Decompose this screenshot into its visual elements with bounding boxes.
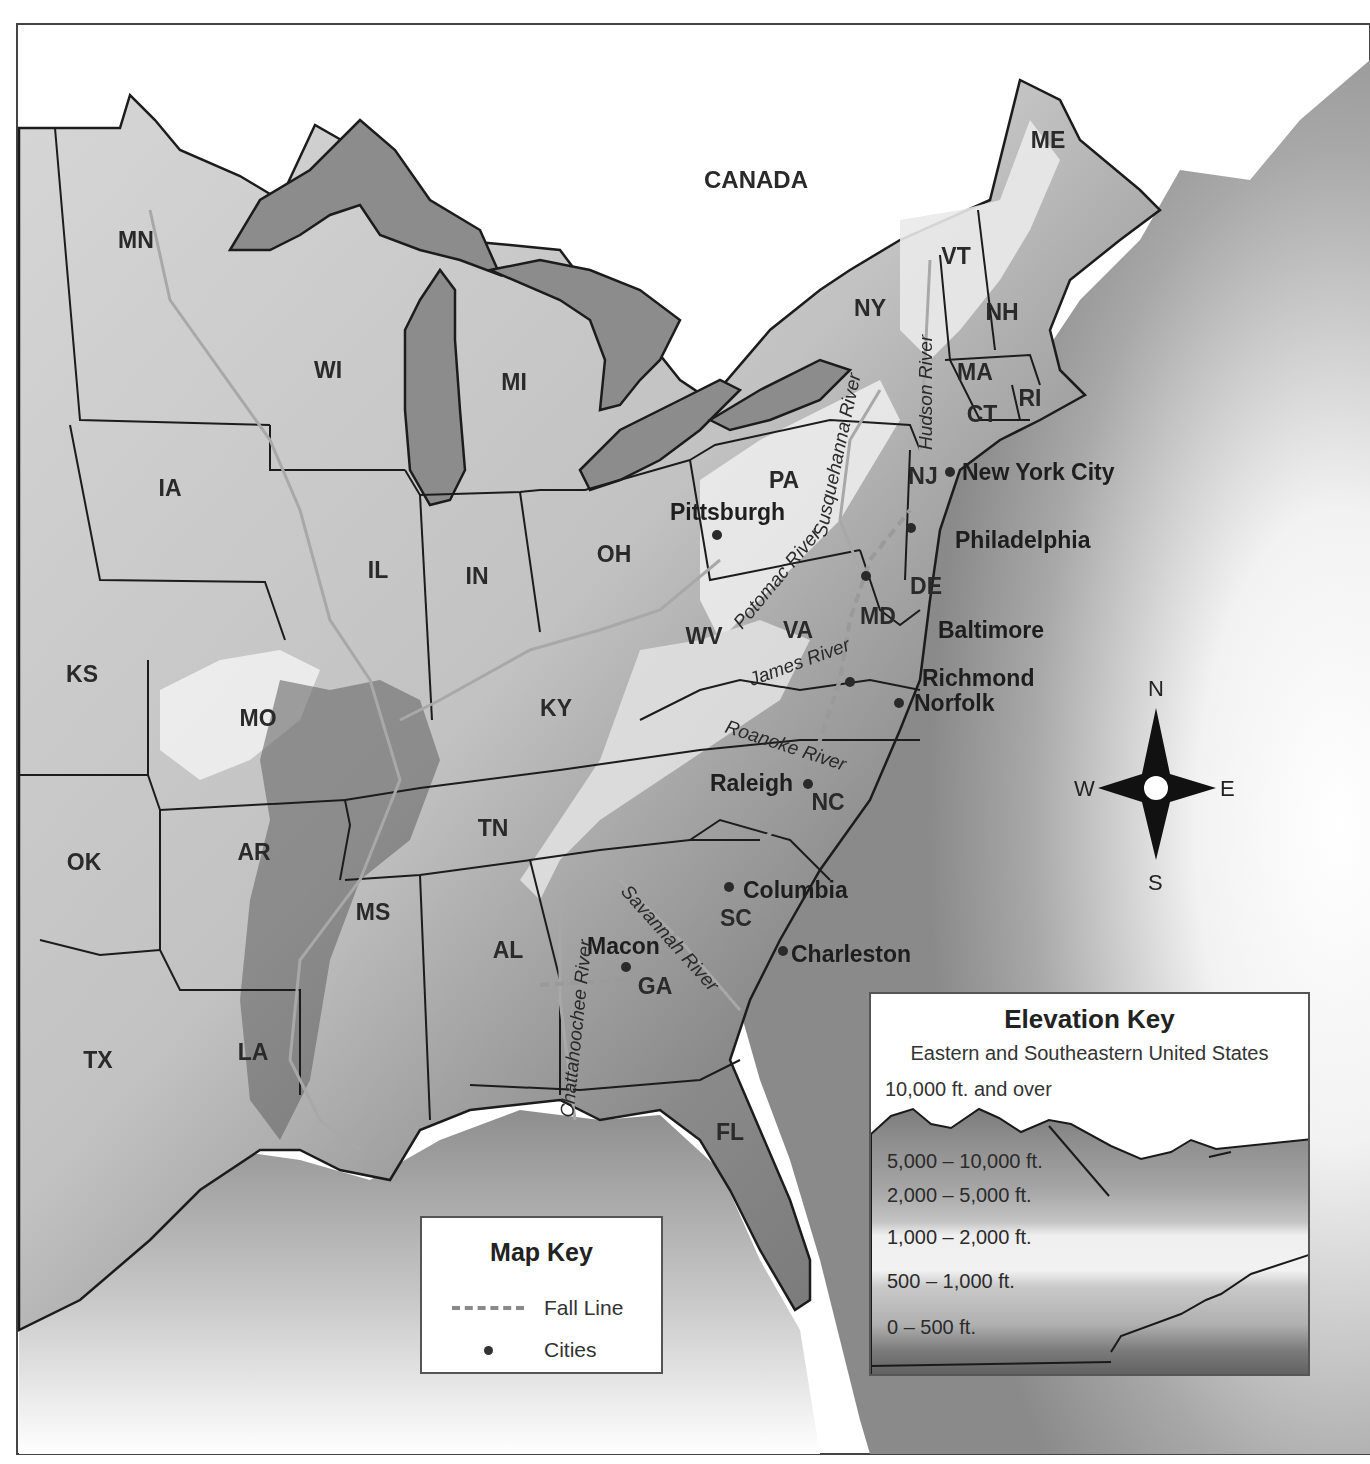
state-label-mo: MO bbox=[239, 705, 276, 731]
state-label-pa: PA bbox=[769, 467, 799, 493]
canada-label: CANADA bbox=[704, 166, 808, 193]
state-label-md: MD bbox=[860, 603, 896, 629]
state-label-ma: MA bbox=[957, 359, 993, 385]
state-label-wi: WI bbox=[314, 357, 342, 383]
city-dot-philadelphia bbox=[906, 523, 916, 533]
state-label-oh: OH bbox=[597, 541, 632, 567]
state-label-mi: MI bbox=[501, 369, 527, 395]
city-dot-columbia bbox=[724, 882, 734, 892]
state-label-ny: NY bbox=[854, 295, 886, 321]
city-dot-pittsburgh bbox=[712, 530, 722, 540]
city-label-new-york-city: New York City bbox=[962, 459, 1115, 485]
band-label-10000-plus: 10,000 ft. and over bbox=[885, 1078, 1052, 1101]
fall-line-label: Fall Line bbox=[544, 1296, 623, 1320]
band-label-0-500: 0 – 500 ft. bbox=[887, 1316, 976, 1339]
state-label-in: IN bbox=[466, 563, 489, 589]
city-label-norfolk: Norfolk bbox=[914, 690, 995, 716]
state-label-nj: NJ bbox=[908, 463, 937, 489]
city-label-philadelphia: Philadelphia bbox=[955, 527, 1091, 553]
elevation-key-subtitle: Eastern and Southeastern United States bbox=[871, 1042, 1308, 1065]
compass-north: N bbox=[1148, 676, 1164, 701]
city-label-columbia: Columbia bbox=[743, 877, 848, 903]
compass-west: W bbox=[1074, 776, 1095, 801]
state-label-va: VA bbox=[783, 617, 813, 643]
state-label-ms: MS bbox=[356, 899, 391, 925]
state-label-fl: FL bbox=[716, 1119, 744, 1145]
compass-south: S bbox=[1148, 870, 1163, 895]
state-label-sc: SC bbox=[720, 905, 752, 931]
city-label-richmond: Richmond bbox=[922, 665, 1034, 691]
state-label-il: IL bbox=[368, 557, 388, 583]
map-key-title: Map Key bbox=[422, 1238, 661, 1267]
city-label-charleston: Charleston bbox=[791, 941, 911, 967]
elevation-key: Elevation Key Eastern and Southeastern U… bbox=[869, 992, 1310, 1376]
state-label-ct: CT bbox=[967, 401, 998, 427]
band-label-5000-10000: 5,000 – 10,000 ft. bbox=[887, 1150, 1043, 1173]
state-label-ks: KS bbox=[66, 661, 98, 687]
state-label-ga: GA bbox=[638, 973, 673, 999]
state-label-me: ME bbox=[1031, 127, 1066, 153]
state-label-de: DE bbox=[910, 573, 942, 599]
map-key-cities: Cities bbox=[452, 1338, 597, 1362]
state-label-ia: IA bbox=[159, 475, 182, 501]
map-key: Map Key Fall Line Cities bbox=[420, 1216, 663, 1374]
band-label-500-1000: 500 – 1,000 ft. bbox=[887, 1270, 1015, 1293]
state-label-ok: OK bbox=[67, 849, 102, 875]
band-label-2000-5000: 2,000 – 5,000 ft. bbox=[887, 1184, 1032, 1207]
compass-center bbox=[1144, 776, 1168, 800]
state-label-vt: VT bbox=[941, 243, 970, 269]
state-label-nh: NH bbox=[985, 299, 1018, 325]
dashed-line-icon bbox=[452, 1306, 524, 1310]
city-label-pittsburgh: Pittsburgh bbox=[670, 499, 785, 525]
city-dot-macon bbox=[621, 962, 631, 972]
city-dot-richmond bbox=[845, 677, 855, 687]
state-label-tn: TN bbox=[478, 815, 509, 841]
state-label-ar: AR bbox=[237, 839, 271, 865]
elevation-key-title: Elevation Key bbox=[871, 1004, 1308, 1035]
state-label-nc: NC bbox=[811, 789, 844, 815]
map-key-fall-line: Fall Line bbox=[452, 1296, 623, 1320]
state-label-wv: WV bbox=[685, 623, 723, 649]
state-label-la: LA bbox=[238, 1039, 269, 1065]
state-label-ky: KY bbox=[540, 695, 572, 721]
city-dot-baltimore bbox=[861, 571, 871, 581]
state-label-tx: TX bbox=[83, 1047, 113, 1073]
city-dot-norfolk bbox=[894, 698, 904, 708]
city-dot-icon bbox=[484, 1346, 493, 1355]
city-label-baltimore: Baltimore bbox=[938, 617, 1044, 643]
city-dot-raleigh bbox=[803, 779, 813, 789]
city-dot-new-york-city bbox=[945, 467, 955, 477]
compass-east: E bbox=[1220, 776, 1235, 801]
city-label-macon: Macon bbox=[587, 933, 660, 959]
cities-label: Cities bbox=[544, 1338, 597, 1362]
river-label-hudson-river: Hudson River bbox=[915, 334, 936, 450]
city-label-raleigh: Raleigh bbox=[710, 770, 793, 796]
band-label-1000-2000: 1,000 – 2,000 ft. bbox=[887, 1226, 1032, 1249]
city-dot-charleston bbox=[778, 946, 788, 956]
state-label-ri: RI bbox=[1019, 385, 1042, 411]
state-label-mn: MN bbox=[118, 227, 154, 253]
state-label-al: AL bbox=[493, 937, 524, 963]
